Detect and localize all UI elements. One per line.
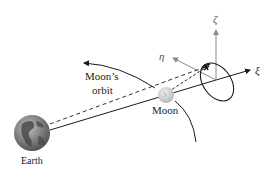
xi-axis-label: ξ — [255, 65, 260, 76]
earth-globe — [14, 115, 50, 151]
earth-label: Earth — [21, 155, 43, 166]
halo-orbit-ellipse — [193, 57, 240, 107]
moon-label: Moon — [152, 105, 178, 116]
earth-spacecraft-dashed-line — [50, 67, 205, 124]
eta-axis — [173, 58, 216, 80]
moon-orbit-label-line1: Moon’s — [85, 71, 119, 82]
eta-axis-label: η — [159, 51, 164, 62]
moon-orbit-label-line2: orbit — [92, 85, 113, 96]
earth-moon-halo-orbit-diagram — [0, 0, 271, 171]
zeta-axis-label: ζ — [213, 14, 217, 25]
moon-sphere — [158, 87, 174, 103]
xi-axis — [216, 70, 250, 80]
